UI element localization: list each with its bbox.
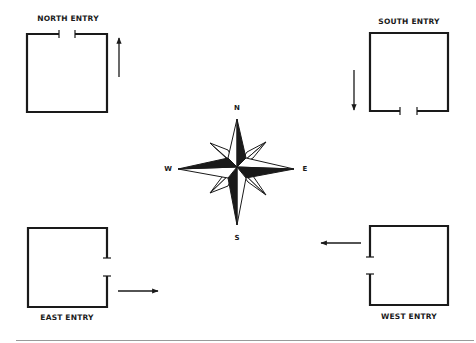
east-entry-room <box>28 228 111 307</box>
compass-rose-icon <box>178 119 294 225</box>
north-entry-label: NORTH ENTRY <box>37 14 99 23</box>
south-entry-room <box>370 33 448 115</box>
compass-west-label: W <box>164 165 172 173</box>
south-entry-label: SOUTH ENTRY <box>378 17 439 26</box>
west-entry-label: WEST ENTRY <box>381 312 437 321</box>
bottom-divider <box>16 340 474 341</box>
east-entry-label: EAST ENTRY <box>40 313 93 322</box>
compass-south-label: S <box>234 234 239 242</box>
compass-east-label: E <box>303 165 308 173</box>
compass-north-label: N <box>234 104 240 112</box>
north-entry-room <box>27 30 107 112</box>
entry-diagram-canvas <box>0 0 476 343</box>
west-entry-room <box>366 226 448 305</box>
